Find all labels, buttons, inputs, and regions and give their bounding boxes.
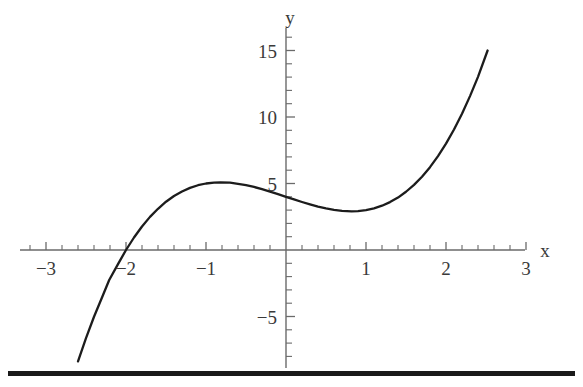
function-curve (78, 51, 488, 362)
figure-container: −3−2−1123 −551015 x y (0, 0, 583, 387)
y-tick-label: 10 (258, 107, 277, 128)
x-tick-label: 1 (361, 258, 371, 279)
x-axis-label: x (540, 240, 550, 261)
y-axis-tick-labels: −551015 (257, 41, 277, 328)
y-axis-label: y (285, 7, 295, 28)
x-axis-minor-ticks (30, 245, 510, 250)
bottom-divider-rule (8, 371, 575, 376)
function-plot: −3−2−1123 −551015 x y (0, 0, 583, 387)
x-axis-tick-labels: −3−2−1123 (36, 258, 531, 279)
y-tick-label: 15 (258, 41, 277, 62)
x-tick-label: −3 (36, 258, 56, 279)
x-tick-label: 2 (441, 258, 451, 279)
y-tick-label: −5 (257, 307, 277, 328)
x-tick-label: 3 (521, 258, 531, 279)
x-tick-label: −1 (196, 258, 216, 279)
